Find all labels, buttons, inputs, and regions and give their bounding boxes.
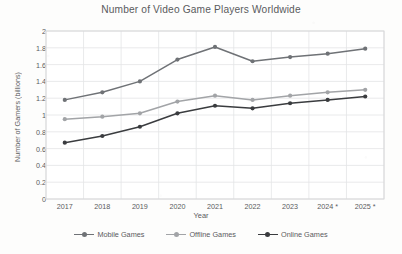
x-tick-label: 2019 <box>132 202 148 211</box>
x-tick-label: 2023 <box>282 202 298 211</box>
legend-marker-icon <box>82 232 87 237</box>
data-point <box>363 47 367 51</box>
data-point <box>326 98 330 102</box>
data-point <box>63 117 67 121</box>
legend-label: Offline Games <box>189 230 236 239</box>
legend-label: Mobile Games <box>97 230 144 239</box>
legend-marker-icon <box>174 232 179 237</box>
legend-label: Online Games <box>281 230 328 239</box>
data-point <box>250 106 254 110</box>
x-tick-label: 2024 * <box>317 202 338 211</box>
x-tick-label: 2022 <box>245 202 261 211</box>
legend-item-online-games[interactable]: Online Games <box>258 230 328 239</box>
data-point <box>175 57 179 61</box>
data-point <box>100 90 104 94</box>
legend-swatch <box>166 231 186 238</box>
x-tick-label: 2025 * <box>355 202 376 211</box>
data-point <box>100 115 104 119</box>
data-point <box>138 111 142 115</box>
data-point <box>175 99 179 103</box>
data-point <box>288 101 292 105</box>
data-point <box>213 45 217 49</box>
legend-swatch <box>258 231 278 238</box>
data-point <box>326 90 330 94</box>
data-point <box>288 94 292 98</box>
x-tick-label: 2017 <box>57 202 73 211</box>
gridlines <box>46 31 384 199</box>
data-point <box>250 59 254 63</box>
data-point <box>363 94 367 98</box>
data-point <box>250 98 254 102</box>
data-point <box>100 134 104 138</box>
legend-item-mobile-games[interactable]: Mobile Games <box>74 230 144 239</box>
data-point <box>138 79 142 83</box>
data-point <box>213 104 217 108</box>
legend-marker-icon <box>265 232 270 237</box>
data-point <box>175 111 179 115</box>
data-point <box>138 125 142 129</box>
legend-swatch <box>74 231 94 238</box>
x-axis-title: Year <box>0 211 402 220</box>
chart-plot-area: Number of Gamers (billions) 00.20.40.60.… <box>0 0 402 254</box>
x-tick-label: 2020 <box>169 202 185 211</box>
x-tick-label: 2018 <box>94 202 110 211</box>
data-point <box>213 94 217 98</box>
legend-item-offline-games[interactable]: Offline Games <box>166 230 236 239</box>
data-point <box>288 55 292 59</box>
data-point <box>326 52 330 56</box>
data-point <box>63 98 67 102</box>
chart-legend: Mobile GamesOffline GamesOnline Games <box>0 230 402 239</box>
data-point <box>363 88 367 92</box>
data-point <box>63 141 67 145</box>
x-tick-label: 2021 <box>207 202 223 211</box>
